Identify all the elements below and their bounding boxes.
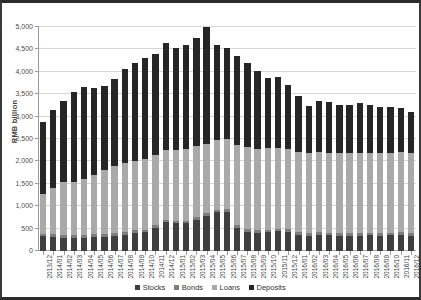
x-axis-tick-label: 2016/10 <box>393 255 400 279</box>
bar-segment-deposits <box>60 101 66 182</box>
bar-column[interactable] <box>357 103 363 251</box>
bar-column[interactable] <box>224 48 230 251</box>
bar-segment-deposits <box>254 71 260 149</box>
bar-segment-loans <box>377 153 383 233</box>
bar-column[interactable] <box>81 87 87 251</box>
bar-column[interactable] <box>265 78 271 251</box>
x-axis-tick-label: 2014/01 <box>56 255 63 279</box>
bar-segment-loans <box>122 163 128 232</box>
bar-column[interactable] <box>132 63 138 251</box>
y-axis-tick-label: 1,000 <box>15 202 33 209</box>
bar-segment-loans <box>254 149 260 231</box>
x-axis-tick-label: 2013/12 <box>46 255 53 279</box>
bar-segment-loans <box>244 147 250 229</box>
bar-segment-deposits <box>71 92 77 182</box>
x-axis-tick-label: 2014/09 <box>138 255 145 279</box>
bar-segment-stocks <box>193 220 199 251</box>
x-axis-tick-label: 2016/08 <box>373 255 380 279</box>
bar-column[interactable] <box>40 122 46 251</box>
bar-segment-deposits <box>224 48 230 139</box>
bar-segment-deposits <box>142 58 148 159</box>
bar-column[interactable] <box>387 107 393 251</box>
bar-column[interactable] <box>163 43 169 251</box>
x-axis-tick-label: 2016/03 <box>322 255 329 279</box>
bar-column[interactable] <box>122 69 128 251</box>
bar-segment-loans <box>183 149 189 221</box>
bar-column[interactable] <box>183 45 189 251</box>
bar-segment-loans <box>367 153 373 233</box>
y-axis-tick-label: 500 <box>21 224 33 231</box>
chart-legend: StocksBondsLoansDeposits <box>2 283 419 292</box>
bar-column[interactable] <box>173 48 179 251</box>
bar-column[interactable] <box>254 71 260 251</box>
bar-segment-deposits <box>234 56 240 146</box>
bar-segment-loans <box>152 155 158 225</box>
x-axis-tick-label: 2014/06 <box>107 255 114 279</box>
bar-column[interactable] <box>101 86 107 251</box>
bar-segment-deposits <box>326 102 332 153</box>
bar-column[interactable] <box>203 27 209 251</box>
bar-segment-stocks <box>40 236 46 251</box>
bar-segment-stocks <box>101 237 107 251</box>
bar-segment-stocks <box>91 237 97 251</box>
bar-segment-loans <box>357 153 363 233</box>
bar-column[interactable] <box>234 56 240 251</box>
bar-segment-loans <box>234 145 240 225</box>
bar-column[interactable] <box>295 96 301 251</box>
bar-segment-loans <box>91 175 97 234</box>
bar-segment-deposits <box>387 107 393 153</box>
bar-segment-deposits <box>203 27 209 143</box>
bar-segment-loans <box>142 159 148 229</box>
y-axis-tick-label: 4,000 <box>15 67 33 74</box>
bar-segment-deposits <box>275 77 281 148</box>
bar-column[interactable] <box>346 105 352 251</box>
legend-item-deposits[interactable]: Deposits <box>249 283 286 292</box>
bar-column[interactable] <box>367 105 373 251</box>
bar-column[interactable] <box>377 107 383 251</box>
bar-column[interactable] <box>214 45 220 251</box>
bar-segment-stocks <box>285 232 291 251</box>
bar-segment-deposits <box>316 101 322 153</box>
bar-column[interactable] <box>285 85 291 251</box>
legend-label: Bonds <box>182 283 203 292</box>
bar-segment-stocks <box>132 233 138 251</box>
legend-item-loans[interactable]: Loans <box>212 283 240 292</box>
x-axis-tick-label: 2015/09 <box>260 255 267 279</box>
bar-segment-stocks <box>265 232 271 251</box>
bar-column[interactable] <box>275 77 281 251</box>
legend-item-bonds[interactable]: Bonds <box>174 283 203 292</box>
bar-column[interactable] <box>142 58 148 251</box>
bar-column[interactable] <box>91 88 97 252</box>
bar-column[interactable] <box>60 101 66 251</box>
legend-label: Stocks <box>143 283 166 292</box>
x-axis-tick-label: 2014/07 <box>117 255 124 279</box>
x-axis-tick-label: 2015/01 <box>179 255 186 279</box>
bar-column[interactable] <box>50 110 56 251</box>
bar-column[interactable] <box>316 101 322 251</box>
bar-segment-loans <box>60 182 66 235</box>
bar-column[interactable] <box>336 105 342 251</box>
bar-column[interactable] <box>71 92 77 251</box>
bar-segment-stocks <box>152 228 158 251</box>
y-axis-tick-label: 2,000 <box>15 157 33 164</box>
bar-column[interactable] <box>152 54 158 251</box>
bar-column[interactable] <box>408 112 414 251</box>
bar-segment-deposits <box>122 69 128 163</box>
bar-segment-stocks <box>60 238 66 251</box>
bar-column[interactable] <box>306 106 312 251</box>
x-axis-tick-label: 2015/06 <box>230 255 237 279</box>
bar-segment-deposits <box>173 48 179 150</box>
bar-segment-stocks <box>50 237 56 251</box>
bar-column[interactable] <box>111 79 117 251</box>
bar-column[interactable] <box>193 38 199 251</box>
bar-segment-deposits <box>377 107 383 154</box>
bar-segment-stocks <box>326 235 332 251</box>
bar-segment-stocks <box>244 232 250 251</box>
legend-item-stocks[interactable]: Stocks <box>135 283 165 292</box>
bar-segment-stocks <box>254 233 260 251</box>
bar-column[interactable] <box>398 108 404 251</box>
y-axis-tick-label: 3,500 <box>15 90 33 97</box>
bar-segment-loans <box>336 153 342 233</box>
bar-column[interactable] <box>326 102 332 251</box>
bar-column[interactable] <box>244 63 250 251</box>
